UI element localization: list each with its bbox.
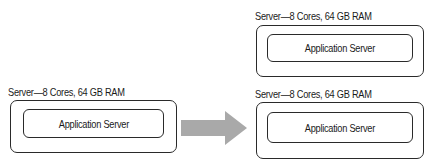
source-server-label: Server—8 Cores, 64 GB RAM [8,86,125,98]
target-app-1-label: Application Server [305,42,375,54]
right-arrow-icon [181,111,247,145]
target-app-2-label: Application Server [305,122,375,134]
target-server-1-box: Application Server [256,25,424,77]
target-server-1-label: Server—8 Cores, 64 GB RAM [255,10,372,22]
target-server-2-label: Server—8 Cores, 64 GB RAM [255,88,372,100]
source-server-box: Application Server [10,100,177,153]
source-app-box: Application Server [23,109,164,138]
target-server-2-box: Application Server [256,102,424,159]
target-app-1-box: Application Server [267,34,413,62]
source-app-label: Application Server [58,118,128,130]
target-app-2-box: Application Server [267,112,413,143]
